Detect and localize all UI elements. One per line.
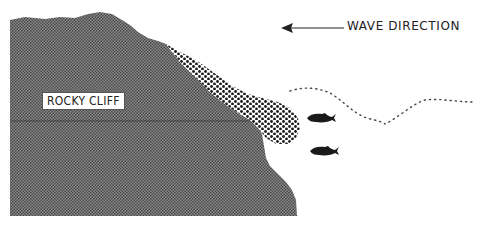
rocky-cliff-label: ROCKY CLIFF [42, 92, 125, 110]
coastal-wave-diagram [0, 0, 487, 227]
wave-direction-arrow-icon [281, 23, 344, 33]
wave-direction-label: WAVE DIRECTION [347, 19, 460, 33]
fish-icon [310, 146, 339, 155]
fish-icon [307, 113, 336, 122]
